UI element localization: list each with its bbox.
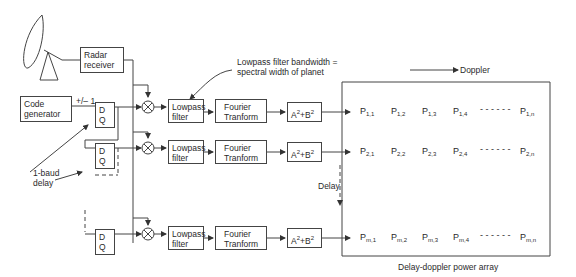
lowpass-filter-m: Lowpass filter xyxy=(168,226,204,250)
square-sum-block-m: A2+B2 xyxy=(287,228,322,248)
radar-receiver-block: Radar receiver xyxy=(80,47,124,73)
fourier-block-1: Fourier Tranform xyxy=(215,99,267,123)
power-cell: P1,2 xyxy=(391,106,405,117)
radar-receiver-label: Radar receiver xyxy=(84,50,114,70)
lowpass-note-line1: Lowpass filter bandwidth = xyxy=(237,57,337,67)
ellipsis: - - - - - - xyxy=(480,104,511,114)
plus-minus-label: +/– 1 xyxy=(76,96,95,106)
power-cell: Pm,4 xyxy=(453,232,469,243)
power-cell: P2,2 xyxy=(391,146,405,157)
dq-label: D Q xyxy=(99,146,106,166)
lowpass-filter-1: Lowpass filter xyxy=(168,99,204,123)
ellipsis: - - - - - - xyxy=(480,144,511,154)
fourier-label: Fourier Tranform xyxy=(224,229,258,249)
power-cell: Pm,n xyxy=(520,232,536,243)
square-sum-block-2: A2+B2 xyxy=(287,142,322,162)
dq-flipflop-2: D Q xyxy=(95,143,115,169)
one-baud-label-2: delay xyxy=(33,178,53,188)
ellipsis: - - - - - - xyxy=(480,230,511,240)
fourier-block-m: Fourier Tranform xyxy=(215,226,267,250)
lowpass-note-line2: spectral width of planet xyxy=(237,67,324,77)
code-generator-label: Code generator xyxy=(24,99,60,119)
doppler-label: Doppler xyxy=(460,65,490,75)
power-cell: Pm,1 xyxy=(360,232,376,243)
dq-flipflop-m: D Q xyxy=(95,229,115,255)
power-cell: Pm,3 xyxy=(422,232,438,243)
lowpass-label: Lowpass filter xyxy=(172,143,206,163)
fourier-label: Fourier Tranform xyxy=(224,102,258,122)
lowpass-label: Lowpass filter xyxy=(172,102,206,122)
delay-label: Delay xyxy=(318,181,340,191)
power-cell: P1,1 xyxy=(360,106,374,117)
power-cell: P1,3 xyxy=(422,106,436,117)
antenna-dish-icon xyxy=(24,15,44,68)
power-cell: P2,n xyxy=(520,146,534,157)
power-cell: P2,3 xyxy=(422,146,436,157)
square-sum-block-1: A2+B2 xyxy=(287,102,322,122)
lowpass-filter-2: Lowpass filter xyxy=(168,140,204,164)
dq-label: D Q xyxy=(99,232,106,252)
array-caption: Delay-doppler power array xyxy=(398,262,498,272)
power-cell: Pm,2 xyxy=(391,232,407,243)
dq-label: D Q xyxy=(99,105,106,125)
code-generator-block: Code generator xyxy=(20,96,72,122)
power-cell: P1,n xyxy=(520,106,534,117)
power-cell: P2,1 xyxy=(360,146,374,157)
power-cell: P2,4 xyxy=(453,146,467,157)
power-cell: P1,4 xyxy=(453,106,467,117)
lowpass-label: Lowpass filter xyxy=(172,229,206,249)
one-baud-label-1: 1-baud xyxy=(33,168,59,178)
fourier-block-2: Fourier Tranform xyxy=(215,140,267,164)
fourier-label: Fourier Tranform xyxy=(224,143,258,163)
dq-flipflop-1: D Q xyxy=(95,102,115,128)
